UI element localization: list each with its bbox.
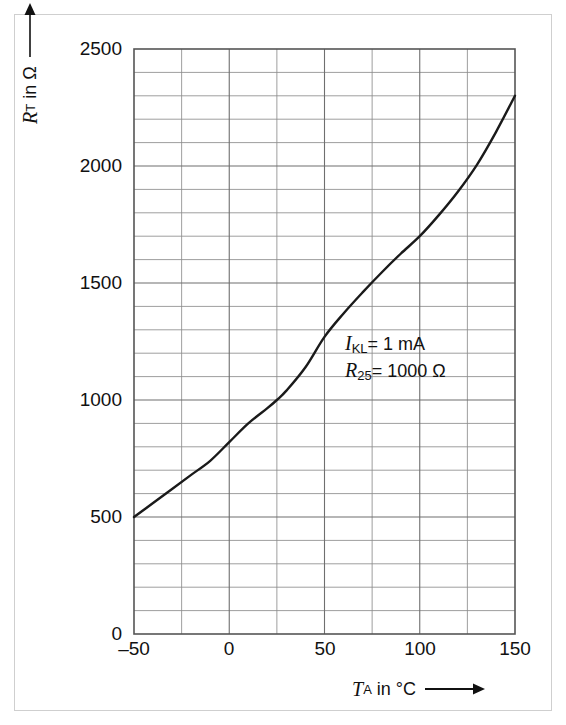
- x-axis-arrow-icon: [425, 679, 485, 700]
- x-tick-label-150: 150: [480, 638, 550, 660]
- x-axis-unit: in °C: [377, 679, 416, 700]
- x-axis-symbol: T: [352, 678, 363, 701]
- annotation-resistance-value: 1000 Ω: [387, 361, 446, 381]
- x-tick-label-50: 50: [290, 638, 360, 660]
- y-axis-arrow-icon: [20, 3, 41, 57]
- x-tick-label-100: 100: [385, 638, 455, 660]
- chart-plot-area: [0, 0, 566, 725]
- annotation-current-subscript: KL: [352, 341, 368, 356]
- thermistor-characteristic-figure: 2500 2000 1500 1000 500 0 –50 0 50 100 1…: [0, 0, 566, 725]
- x-axis-subscript: A: [363, 682, 372, 697]
- y-tick-label-2000: 2000: [52, 155, 122, 177]
- annotation-current: IKL= 1 mA: [345, 332, 425, 356]
- x-tick-label-minus50: –50: [99, 638, 169, 660]
- y-tick-label-2500: 2500: [52, 38, 122, 60]
- y-tick-label-1500: 1500: [52, 272, 122, 294]
- annotation-current-symbol: I: [345, 332, 352, 354]
- annotation-resistance-symbol: R: [345, 359, 357, 381]
- annotation-current-equals: =: [368, 334, 379, 354]
- annotation-current-value: 1 mA: [383, 334, 425, 354]
- y-axis-title: RT in Ω: [16, 0, 44, 124]
- x-tick-label-0: 0: [194, 638, 264, 660]
- y-axis-unit: in Ω: [20, 66, 41, 98]
- x-axis-title: TA in °C: [352, 678, 485, 701]
- y-axis-subscript: T: [23, 104, 38, 112]
- annotation-resistance-equals: =: [372, 361, 383, 381]
- annotation-resistance-subscript: 25: [357, 368, 371, 383]
- y-tick-label-500: 500: [52, 506, 122, 528]
- major-gridlines: [134, 49, 515, 634]
- y-axis-symbol: R: [19, 112, 42, 124]
- annotation-nominal-resistance: R25= 1000 Ω: [345, 359, 446, 383]
- y-tick-label-1000: 1000: [52, 389, 122, 411]
